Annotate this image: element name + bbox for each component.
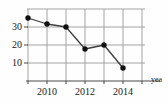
data-point: [101, 42, 106, 47]
data-point: [120, 65, 125, 70]
data-point: [82, 46, 87, 51]
data-line: [28, 18, 123, 68]
x-tick-label-2014: 2014: [106, 86, 140, 97]
x-tick-label-2012: 2012: [68, 86, 102, 97]
y-tick-label-30: 30: [0, 21, 22, 32]
data-point: [25, 15, 30, 20]
line-chart: 30 20 10 2010 2012 2014 yea: [0, 0, 168, 103]
y-tick-label-20: 20: [0, 39, 22, 50]
x-tick-label-2010: 2010: [30, 86, 64, 97]
y-tick-label-10: 10: [0, 57, 22, 68]
x-axis-title: yea: [151, 75, 168, 84]
y-axis-ticks: [24, 27, 28, 63]
horizontal-gridlines: [27, 9, 145, 63]
data-point: [63, 24, 68, 29]
data-point: [44, 21, 49, 26]
data-point-markers: [25, 15, 125, 70]
